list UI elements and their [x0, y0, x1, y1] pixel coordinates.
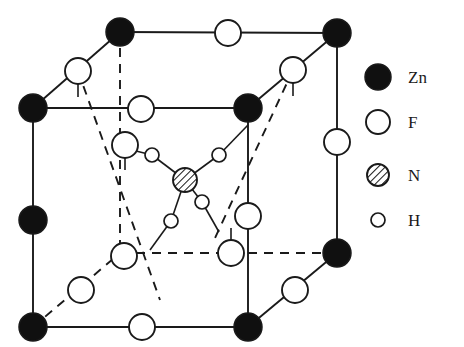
h-lower-right — [195, 195, 209, 209]
zn-top-back-right — [323, 19, 351, 47]
structure-canvas: ZnFNH — [0, 0, 464, 347]
f-top-back-edge — [215, 20, 241, 46]
legend-symbol-f-icon — [366, 110, 390, 134]
f-top-left-diag — [65, 58, 91, 84]
nitrogen-atom — [173, 168, 197, 192]
zn-top-back-left — [106, 18, 134, 46]
h-upper-right — [212, 148, 226, 162]
zn-mid-front-left — [19, 206, 47, 234]
f-right-back-edge — [324, 129, 350, 155]
h-lower-left — [164, 214, 178, 228]
legend-symbol-h-icon — [371, 213, 385, 227]
legend-symbol-zn-icon — [365, 64, 391, 90]
zn-top-front-left — [19, 94, 47, 122]
legend: ZnFNH — [365, 64, 427, 230]
crystal-structure-figure: ZnFNH — [0, 0, 464, 347]
zn-bottom-front-left — [19, 313, 47, 341]
f-top-face-center — [128, 96, 154, 122]
legend-symbol-n-icon — [367, 164, 389, 186]
f-bottom-front-edge — [129, 314, 155, 340]
legend-label-zn: Zn — [408, 68, 427, 87]
f-bottom-right-diag — [282, 277, 308, 303]
f-lower-inner-left — [111, 243, 137, 269]
legend-label-n: N — [408, 166, 420, 185]
zn-top-front-right — [234, 94, 262, 122]
legend-label-f: F — [408, 113, 417, 132]
h-upper-left — [145, 148, 159, 162]
f-front-center-edge — [235, 203, 261, 229]
f-lower-inner-right — [218, 240, 244, 266]
f-upper-inner-left — [112, 132, 138, 158]
fluorine-atoms — [65, 20, 350, 340]
zn-bottom-back-right — [323, 239, 351, 267]
zn-bottom-front-right — [234, 313, 262, 341]
n-center — [173, 168, 197, 192]
legend-label-h: H — [408, 211, 420, 230]
f-top-right-diag — [280, 57, 306, 83]
f-bottom-back-diag — [68, 277, 94, 303]
